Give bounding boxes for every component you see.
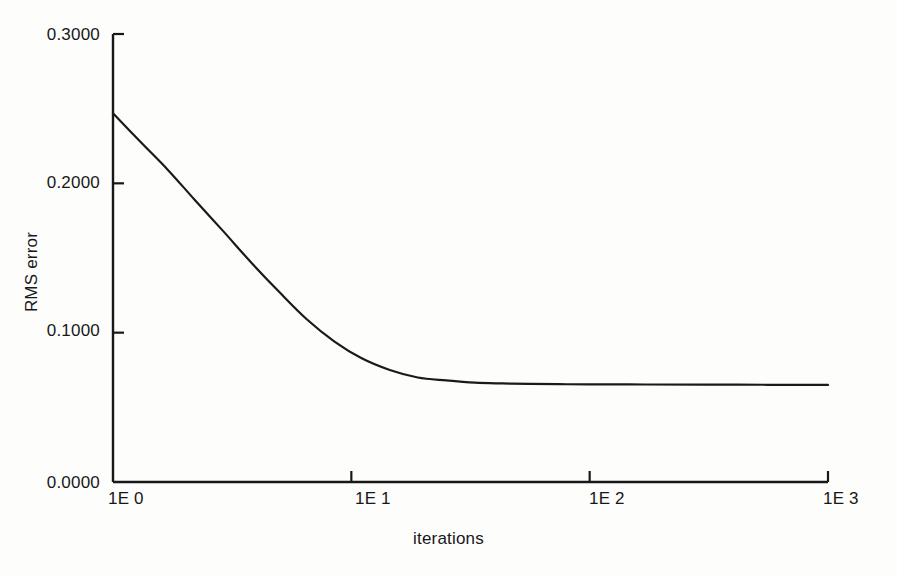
x-axis-title: iterations — [0, 529, 897, 549]
y-tick-label-3: 0.0000 — [8, 473, 100, 493]
x-tick-label-2: 1E 2 — [589, 489, 625, 509]
series-line-rms-error — [113, 113, 828, 385]
y-axis-ticks — [113, 34, 124, 482]
y-tick-label-0: 0.3000 — [8, 25, 100, 45]
x-tick-label-0: 1E 0 — [108, 489, 144, 509]
y-tick-label-1: 0.2000 — [8, 173, 100, 193]
y-axis-title: RMS error — [22, 212, 42, 332]
chart-figure: 0.3000 0.2000 0.1000 0.0000 1E 0 1E 1 1E… — [0, 0, 897, 576]
x-tick-label-1: 1E 1 — [355, 489, 391, 509]
x-tick-label-3: 1E 3 — [823, 489, 859, 509]
x-axis-ticks — [113, 471, 828, 482]
